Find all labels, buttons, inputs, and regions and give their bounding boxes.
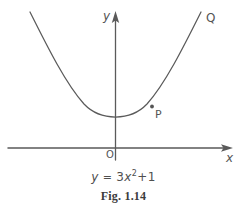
point-label-q: Q (206, 12, 215, 24)
equation-variable: x (124, 170, 132, 184)
x-axis-label: x (226, 152, 233, 164)
equation-constant: 1 (148, 170, 156, 184)
figure-container: y x O P Q y=3x2+1 Fig. 1.14 (0, 0, 247, 211)
figure-caption: Fig. 1.14 (0, 189, 247, 204)
point-p-marker (150, 105, 154, 109)
origin-label: O (106, 150, 114, 160)
y-axis-label: y (103, 10, 110, 22)
equation-operator: = (99, 171, 117, 184)
point-label-p: P (155, 109, 162, 120)
equation-label: y=3x2+1 (0, 170, 247, 184)
equation-plus: + (137, 170, 147, 184)
equation-lhs: y (91, 170, 99, 184)
